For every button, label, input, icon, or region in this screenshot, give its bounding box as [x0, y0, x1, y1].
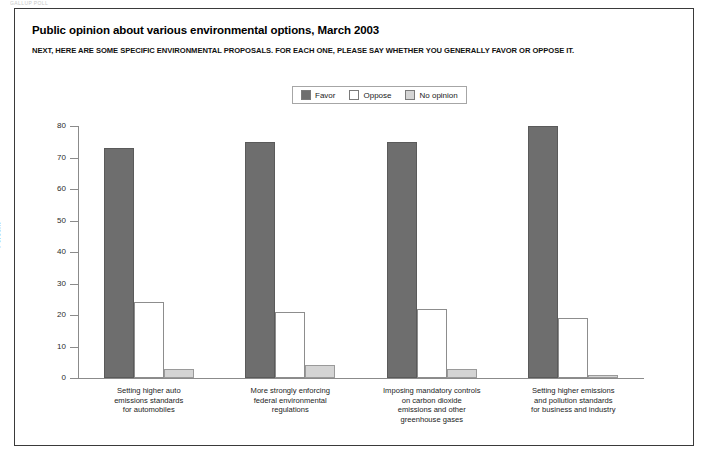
x-category-label-3: Imposing mandatory controlson carbon dio… [361, 386, 503, 424]
y-tick-70 [70, 158, 78, 159]
legend-label-no-opinion: No opinion [419, 91, 457, 100]
x-category-label-line: regulations [224, 405, 358, 415]
legend-swatch-oppose [349, 90, 359, 100]
y-tick-label-50: 50 [32, 216, 66, 225]
y-tick-label-0: 0 [32, 373, 66, 382]
x-axis-line [78, 378, 644, 379]
x-category-label-line: Setting higher auto [82, 386, 216, 396]
x-axis-category-labels: Setting higher autoemissions standardsfo… [78, 386, 644, 424]
y-tick-30 [70, 284, 78, 285]
chart-title: Public opinion about various environment… [32, 24, 379, 36]
bar-groups [78, 126, 644, 378]
bar-noop-2[interactable] [305, 365, 335, 378]
y-tick-0 [70, 378, 78, 379]
y-tick-label-10: 10 [32, 342, 66, 351]
x-category-label-line: and pollution standards [507, 396, 641, 406]
x-category-label-line: Imposing mandatory controls [365, 386, 499, 396]
legend-label-favor: Favor [315, 91, 335, 100]
x-category-label-line: emissions and other [365, 405, 499, 415]
y-tick-label-70: 70 [32, 153, 66, 162]
y-tick-60 [70, 189, 78, 190]
bar-oppose-3[interactable] [417, 309, 447, 378]
bars-container [503, 126, 645, 378]
y-tick-label-30: 30 [32, 279, 66, 288]
x-category-label-4: Setting higher emissionsand pollution st… [503, 386, 645, 424]
chart-legend: Favor Oppose No opinion [292, 86, 467, 104]
y-tick-10 [70, 347, 78, 348]
bar-group-4 [503, 126, 645, 378]
legend-item-no-opinion: No opinion [405, 90, 457, 100]
y-tick-label-20: 20 [32, 310, 66, 319]
legend-item-favor: Favor [301, 90, 335, 100]
bar-favor-1[interactable] [104, 148, 134, 378]
bar-group-3 [361, 126, 503, 378]
page-top-strip: GALLUP POLL [10, 0, 130, 7]
y-tick-20 [70, 315, 78, 316]
y-tick-40 [70, 252, 78, 253]
bars-container [361, 126, 503, 378]
y-tick-label-60: 60 [32, 184, 66, 193]
x-category-label-line: federal environmental [224, 396, 358, 406]
x-category-label-line: on carbon dioxide [365, 396, 499, 406]
y-tick-label-40: 40 [32, 247, 66, 256]
x-category-label-line: emissions standards [82, 396, 216, 406]
y-tick-50 [70, 221, 78, 222]
bar-noop-1[interactable] [164, 369, 194, 378]
bars-container [220, 126, 362, 378]
x-category-label-line: More strongly enforcing [224, 386, 358, 396]
chart-subtitle: NEXT, HERE ARE SOME SPECIFIC ENVIRONMENT… [32, 46, 574, 55]
bar-group-1 [78, 126, 220, 378]
x-category-label-line: greenhouse gases [365, 415, 499, 425]
bar-noop-4[interactable] [588, 375, 618, 378]
x-category-label-2: More strongly enforcingfederal environme… [220, 386, 362, 424]
legend-swatch-no-opinion [405, 90, 415, 100]
bar-favor-2[interactable] [245, 142, 275, 378]
y-tick-label-80: 80 [32, 121, 66, 130]
bar-oppose-4[interactable] [558, 318, 588, 378]
bar-group-2 [220, 126, 362, 378]
x-category-label-line: for business and industry [507, 405, 641, 415]
y-tick-80 [70, 126, 78, 127]
bar-noop-3[interactable] [447, 369, 477, 378]
x-category-label-1: Setting higher autoemissions standardsfo… [78, 386, 220, 424]
bars-container [78, 126, 220, 378]
bar-oppose-1[interactable] [134, 302, 164, 378]
chart-page: GALLUP POLL Public opinion about various… [0, 0, 709, 454]
y-axis-title: Percent [0, 222, 1, 248]
legend-item-oppose: Oppose [349, 90, 391, 100]
x-category-label-line: for automobiles [82, 405, 216, 415]
x-category-label-line: Setting higher emissions [507, 386, 641, 396]
legend-label-oppose: Oppose [363, 91, 391, 100]
bar-favor-3[interactable] [387, 142, 417, 378]
bar-favor-4[interactable] [528, 126, 558, 378]
legend-swatch-favor [301, 90, 311, 100]
bar-oppose-2[interactable] [275, 312, 305, 378]
